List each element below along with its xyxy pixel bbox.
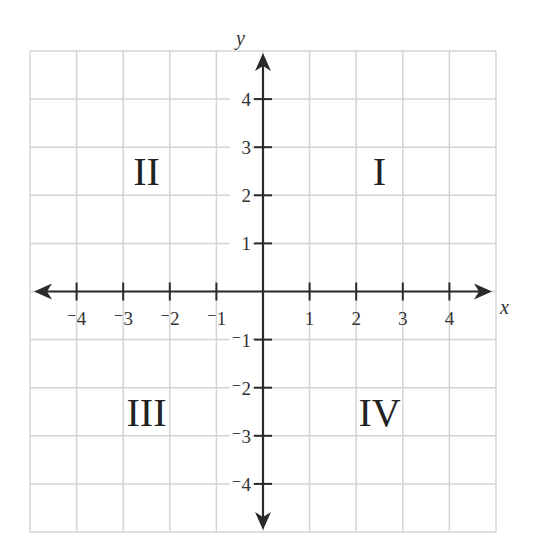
quadrant-label: I <box>373 149 386 194</box>
quadrant-label: III <box>127 390 167 435</box>
y-tick-label: 3 <box>242 137 252 158</box>
quadrant-label: II <box>133 149 160 194</box>
y-tick-label: ⁻1 <box>231 330 251 351</box>
x-tick-label: 3 <box>398 308 408 329</box>
y-tick-label: ⁻4 <box>231 474 251 495</box>
x-tick-label: ⁻1 <box>207 308 227 329</box>
y-axis-name: y <box>234 27 245 50</box>
y-tick-label: 2 <box>242 185 252 206</box>
x-tick-label: ⁻3 <box>113 308 133 329</box>
x-tick-label: ⁻4 <box>67 308 87 329</box>
axes <box>34 53 492 530</box>
x-tick-label: 1 <box>305 308 315 329</box>
y-tick-label: ⁻3 <box>231 426 251 447</box>
coordinate-plane: ⁻4⁻3⁻2⁻112344321⁻1⁻2⁻3⁻4 IIIIIIIV x y <box>0 0 535 552</box>
x-tick-label: 2 <box>351 308 361 329</box>
quadrant-label: IV <box>358 390 400 435</box>
x-tick-label: 4 <box>445 308 455 329</box>
x-axis-name: x <box>499 296 509 318</box>
y-tick-label: 4 <box>242 89 252 110</box>
x-tick-label: ⁻2 <box>160 308 180 329</box>
y-tick-label: ⁻2 <box>231 378 251 399</box>
y-tick-label: 1 <box>242 233 252 254</box>
